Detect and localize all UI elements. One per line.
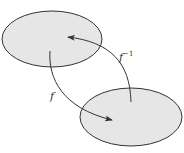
function-diagram: f f−1 [0, 0, 184, 153]
label-f-inverse: f−1 [118, 50, 133, 64]
domain-set-ellipse [2, 11, 102, 67]
label-f: f [49, 90, 56, 103]
label-f-inverse-sup: −1 [123, 50, 133, 58]
